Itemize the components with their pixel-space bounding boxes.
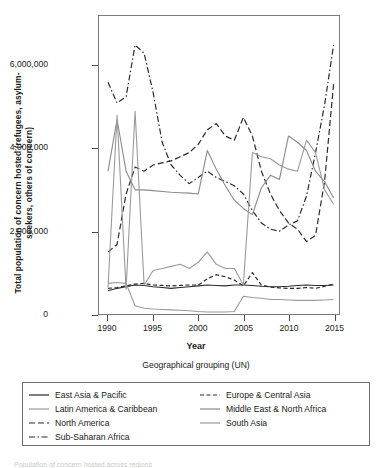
legend-item-label: North America <box>55 418 109 428</box>
series-line <box>108 283 334 312</box>
legend-item[interactable]: Latin America & Caribbean <box>28 402 196 416</box>
x-axis-tick-label: 2010 <box>269 323 309 333</box>
legend-line-sample <box>28 390 50 400</box>
legend-item[interactable]: North America <box>28 416 196 430</box>
legend-line-sample <box>199 418 221 428</box>
y-axis-tick-label: 2,000,000 <box>10 226 48 236</box>
x-axis-tick-mark <box>107 315 108 321</box>
legend-line-sample <box>199 390 221 400</box>
y-axis-title: Total population of concern hosted (refu… <box>13 33 35 333</box>
legend-item[interactable]: Europe & Central Asia <box>199 388 367 402</box>
y-axis-tick-label: 6,000,000 <box>10 59 48 69</box>
series-line <box>108 119 334 214</box>
y-axis-tick-label: 4,000,000 <box>10 142 48 152</box>
x-axis-tick-mark <box>153 315 154 321</box>
legend-title: Geographical grouping (UN) <box>0 360 392 370</box>
legend-item[interactable]: Middle East & North Africa <box>199 402 367 416</box>
legend-box: East Asia & PacificLatin America & Carib… <box>22 382 370 446</box>
chart-figure: Total population of concern hosted (refu… <box>0 0 392 468</box>
series-line <box>108 45 334 231</box>
legend-item-label: South Asia <box>226 418 267 428</box>
x-axis-tick-label: 2015 <box>315 323 355 333</box>
legend-item-label: Sub-Saharan Africa <box>55 432 130 442</box>
series-line <box>108 84 334 252</box>
y-axis-title-line1: Total population of concern hosted (refu… <box>13 72 23 293</box>
y-axis-tick-mark <box>92 315 98 316</box>
series-lines <box>99 16 339 314</box>
plot-area <box>98 15 340 315</box>
legend-line-sample <box>28 418 50 428</box>
x-axis-title: Year <box>0 341 392 351</box>
legend-line-sample <box>28 432 50 442</box>
legend-item[interactable]: East Asia & Pacific <box>28 388 196 402</box>
legend-column-left: East Asia & PacificLatin America & Carib… <box>28 388 196 444</box>
x-axis-tick-mark <box>244 315 245 321</box>
bottom-caption: Population of concern hosted across regi… <box>14 461 384 468</box>
x-axis-tick-label: 1995 <box>133 323 173 333</box>
y-axis-tick-label: 0 <box>43 309 48 319</box>
legend-line-sample <box>199 404 221 414</box>
legend-item-label: Middle East & North Africa <box>226 404 326 414</box>
legend-column-right: Europe & Central AsiaMiddle East & North… <box>199 388 367 430</box>
y-axis-title-line2: seekers, others of concern) <box>24 33 35 333</box>
legend-line-sample <box>28 404 50 414</box>
x-axis-tick-mark <box>335 315 336 321</box>
legend-item[interactable]: South Asia <box>199 416 367 430</box>
x-axis-tick-mark <box>289 315 290 321</box>
x-axis-tick-label: 2000 <box>178 323 218 333</box>
x-axis-tick-label: 2005 <box>224 323 264 333</box>
legend-item-label: Latin America & Caribbean <box>55 404 157 414</box>
legend-item-label: East Asia & Pacific <box>55 390 127 400</box>
x-axis-tick-label: 1990 <box>87 323 127 333</box>
legend-item-label: Europe & Central Asia <box>226 390 311 400</box>
legend-item[interactable]: Sub-Saharan Africa <box>28 430 196 444</box>
series-line <box>108 111 334 289</box>
x-axis-tick-mark <box>198 315 199 321</box>
